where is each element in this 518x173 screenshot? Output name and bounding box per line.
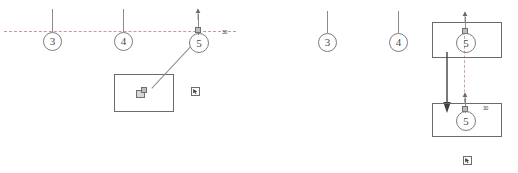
grid-bubble-5-original[interactable]: 5 [456,33,476,53]
move-grip-handle-secondary[interactable] [141,87,147,93]
grid-direction-arrow-up-original [460,11,470,23]
grid-bubble-4[interactable]: 4 [114,32,133,51]
grid-bubble-3[interactable]: 3 [43,32,62,51]
grid-direction-arrow-up [193,8,203,20]
cursor-select-icon [191,87,200,96]
grid-stem-4 [123,9,124,32]
grid-bubble-5-original-label: 5 [463,37,469,48]
grid-stem-3-after [327,11,328,33]
panel-before: 3 4 5 30 [0,0,259,173]
grid-bubble-3-after-label: 3 [325,37,331,48]
grid-bubble-3-after[interactable]: 3 [318,33,337,52]
dimension-label-30-after: 30 [483,106,488,111]
grid-bubble-5-label: 5 [196,37,202,48]
grid-bubble-4-after[interactable]: 4 [389,33,408,52]
grid-bubble-4-label: 4 [121,36,127,47]
drawing-canvas: 3 4 5 30 [0,0,518,173]
grid-bubble-5-moved[interactable]: 5 [456,111,476,131]
grid-bubble-4-after-label: 4 [396,37,402,48]
panel-after: 3 4 5 [259,0,518,173]
grid-stem-3 [52,9,53,32]
dimension-label-30: 30 [222,30,227,35]
grid-bubble-3-label: 3 [50,36,56,47]
cursor-select-icon-after [463,156,472,165]
grid-bubble-5-moved-label: 5 [463,115,469,126]
grid-stem-4-after [398,11,399,33]
grid-bubble-5[interactable]: 5 [189,33,209,53]
grid-direction-arrow-up-moved [460,92,470,104]
